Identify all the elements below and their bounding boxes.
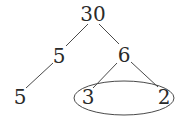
edge-left-to-left-leaf (26, 63, 53, 88)
edge-root-to-right (99, 24, 119, 44)
node-right: 6 (118, 43, 131, 67)
factor-tree-diagram: 30 5 6 5 3 2 (0, 0, 184, 122)
node-right-left-leaf: 3 (82, 85, 95, 109)
node-left: 5 (53, 44, 66, 68)
node-root: 30 (80, 2, 105, 26)
node-left-leaf: 5 (14, 85, 27, 109)
edge-right-to-right-right-leaf (131, 62, 158, 87)
node-right-right-leaf: 2 (158, 85, 171, 109)
edge-root-to-left (66, 24, 88, 46)
